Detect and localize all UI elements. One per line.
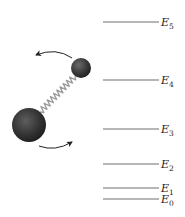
energy-level-E5: E5 xyxy=(103,16,174,31)
energy-levels: E5E4E3E2E1E0 xyxy=(103,16,174,208)
energy-level-E0: E0 xyxy=(103,193,174,208)
top-arrow-rotation-icon xyxy=(36,52,72,58)
energy-level-label: E5 xyxy=(160,16,174,31)
energy-level-E2: E2 xyxy=(103,158,174,173)
energy-level-label: E2 xyxy=(160,158,174,173)
energy-level-E4: E4 xyxy=(103,74,174,89)
diatomic-molecule xyxy=(12,52,91,149)
molecule-energy-diagram: E5E4E3E2E1E0 xyxy=(0,0,185,217)
bottom-arrow-rotation-icon xyxy=(39,142,72,148)
large-atom xyxy=(12,108,46,142)
small-atom xyxy=(71,58,91,78)
energy-level-label: E3 xyxy=(160,123,174,138)
energy-level-label: E4 xyxy=(160,74,174,89)
spring-bond xyxy=(40,76,76,113)
energy-level-E3: E3 xyxy=(103,123,174,138)
